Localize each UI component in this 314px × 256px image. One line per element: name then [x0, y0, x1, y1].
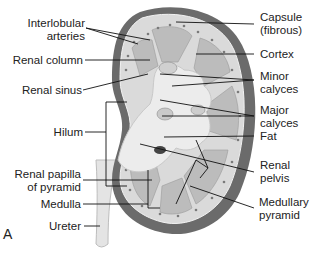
label-fat: Fat [260, 130, 277, 143]
label-minor-calyces: Minor calyces [260, 70, 298, 96]
label-line: Minor [260, 70, 298, 83]
label-renal-sinus: Renal sinus [22, 84, 82, 97]
label-cortex: Cortex [260, 48, 294, 61]
label-line: calyces [260, 83, 298, 96]
label-line: Renal [260, 159, 290, 172]
label-ureter: Ureter [49, 220, 81, 233]
label-medulla: Medulla [41, 198, 81, 211]
label-line: Major [260, 104, 298, 117]
panel-letter: A [3, 226, 12, 242]
label-line: pelvis [260, 172, 290, 185]
label-line: calyces [260, 117, 298, 130]
label-line: arteries [27, 30, 85, 43]
label-renal-papilla: Renal papilla of pyramid [15, 168, 82, 194]
label-capsule: Capsule (fibrous) [260, 11, 302, 37]
label-line: (fibrous) [260, 24, 302, 37]
label-renal-column: Renal column [13, 54, 83, 67]
label-medullary-pyramid: Medullary pyramid [259, 196, 309, 222]
label-hilum: Hilum [54, 126, 83, 139]
label-line: Interlobular [27, 17, 85, 30]
label-line: pyramid [259, 209, 309, 222]
label-line: of pyramid [15, 181, 82, 194]
label-renal-pelvis: Renal pelvis [260, 159, 290, 185]
label-line: Renal papilla [15, 168, 82, 181]
label-interlobular-arteries: Interlobular arteries [27, 17, 85, 43]
label-line: Capsule [260, 11, 302, 24]
label-line: Medullary [259, 196, 309, 209]
label-major-calyces: Major calyces [260, 104, 298, 130]
